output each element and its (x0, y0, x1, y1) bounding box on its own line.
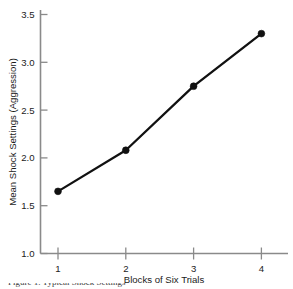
data-series-line (58, 34, 261, 192)
data-point-marker (258, 30, 265, 37)
x-tick-label: 4 (259, 263, 265, 274)
x-tick-label: 3 (191, 263, 196, 274)
data-point-marker (122, 147, 129, 154)
data-point-marker (190, 83, 197, 90)
x-axis-ticks: 1234 (55, 248, 264, 274)
x-tick-label: 1 (55, 263, 60, 274)
figure-caption-clipped: Figure 1. Typical Shock Settings (0, 283, 293, 289)
data-point-marker (55, 188, 62, 195)
y-tick-label: 2.0 (21, 152, 34, 163)
line-chart: 1.01.52.02.53.03.5 1234 Blocks of Six Tr… (0, 0, 293, 289)
y-axis-ticks: 1.01.52.02.53.03.5 (21, 9, 47, 259)
figure-panel: 1.01.52.02.53.03.5 1234 Blocks of Six Tr… (0, 0, 293, 289)
y-tick-label: 1.0 (21, 248, 34, 259)
x-tick-label: 2 (123, 263, 128, 274)
y-tick-label: 2.5 (21, 105, 34, 116)
figure-caption-text: Figure 1. Typical Shock Settings (8, 283, 125, 287)
y-tick-label: 3.5 (21, 9, 34, 20)
y-tick-label: 1.5 (21, 200, 34, 211)
y-tick-label: 3.0 (21, 57, 34, 68)
y-axis-title: Mean Shock Settings (Aggression) (7, 58, 18, 206)
